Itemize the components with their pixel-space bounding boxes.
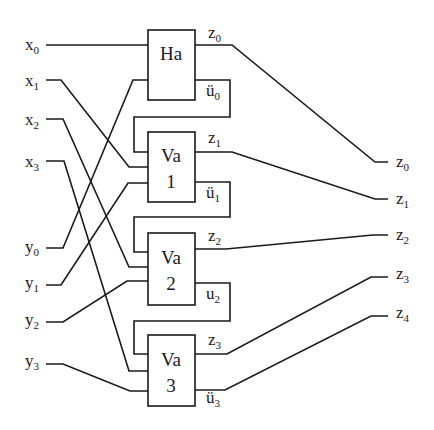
block-label-va3: Va [161,349,182,370]
wire-y0 [46,80,148,248]
output-label-z0: z0 [396,152,410,173]
sum-label-z3: z3 [208,330,222,351]
carry-wires [134,80,230,354]
output-label-z2: z2 [396,225,409,246]
sum-label-z2: z2 [208,226,221,247]
block-va3: Va 3 [148,335,195,406]
input-label-y3: y3 [25,351,40,372]
carry-label-u3: ü3 [206,388,221,409]
block-index-va1: 1 [166,171,176,192]
block-index-va2: 2 [166,273,176,294]
input-labels-x: x0 x1 x2 x3 [25,35,40,173]
input-label-x0: x0 [25,35,40,56]
carry-label-u1: ü1 [206,183,220,204]
output-labels: z0 z1 z2 z3 z4 [396,152,410,324]
full-adder-box-2 [148,233,195,305]
block-ha: Ha [148,30,195,100]
output-label-z3: z3 [396,264,410,285]
input-label-y1: y1 [25,273,39,294]
block-label-ha: Ha [160,43,183,64]
wire-y3 [46,364,148,391]
block-va1: Va 1 [148,132,195,202]
wire-x3 [46,161,148,371]
input-label-x3: x3 [25,152,40,173]
block-label-va2: Va [161,247,182,268]
wire-x2 [46,119,148,267]
adder-circuit-diagram: x0 x1 x2 x3 y0 y1 y2 y3 [0,0,434,430]
block-va2: Va 2 [148,233,195,305]
half-adder-box [148,30,195,100]
output-label-z4: z4 [396,303,410,324]
sum-label-z1: z1 [208,128,221,149]
sum-label-z0: z0 [208,23,222,44]
wire-z2 [195,235,388,249]
wire-x1 [46,80,148,167]
wire-y2 [46,281,148,322]
input-label-x1: x1 [25,71,39,92]
wire-z3 [195,277,388,354]
block-label-va1: Va [161,145,182,166]
carry-label-u0: ü0 [206,81,221,102]
input-label-y0: y0 [25,237,40,258]
wire-z1 [195,152,388,199]
block-index-va3: 3 [166,375,176,396]
carry-label-u2: u2 [206,284,220,305]
wire-z4 [195,316,388,390]
input-wires [46,45,148,391]
input-labels-y: y0 y1 y2 y3 [25,237,40,372]
input-label-x2: x2 [25,110,39,131]
input-label-y2: y2 [25,310,39,331]
wire-z0 [195,45,388,162]
output-label-z1: z1 [396,189,409,210]
